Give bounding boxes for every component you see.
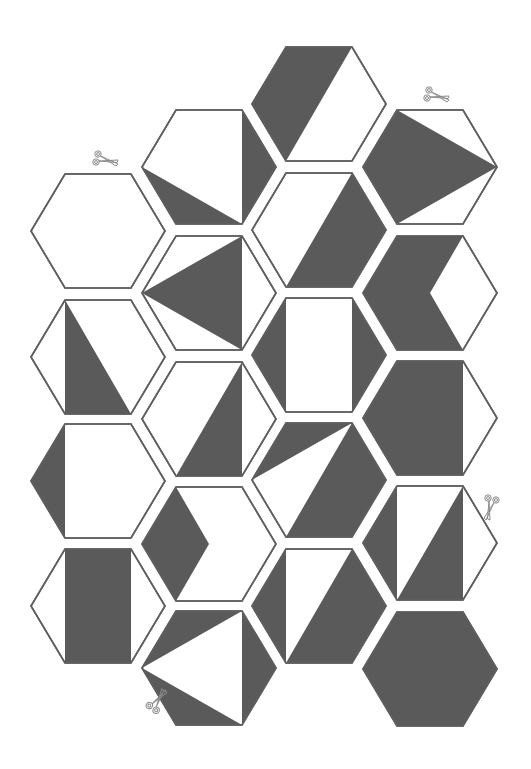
hexagon-c0r1 <box>31 300 165 414</box>
hexagon-c0r2 <box>31 424 165 538</box>
hexagon-c1r2 <box>142 362 276 476</box>
hexagon-c1r1 <box>142 236 276 350</box>
hexagon-layer <box>31 47 497 726</box>
hexagon-c2r1 <box>252 173 386 287</box>
hexagon-outline <box>31 174 165 288</box>
hexagon-sheet <box>0 0 531 769</box>
hexagon-c1r4 <box>142 611 276 725</box>
hexagon-c3r3 <box>363 486 497 600</box>
hexagon-c3r1 <box>363 236 497 350</box>
scissors-icon <box>424 87 449 102</box>
hexagon-c2r2 <box>252 298 386 412</box>
hexagon-c0r0 <box>31 174 165 288</box>
hexagon-c1r0 <box>142 110 276 224</box>
hexagon-c2r4 <box>252 549 386 663</box>
hexagon-c2r3 <box>252 423 386 537</box>
hexagon-dark-region <box>363 612 497 726</box>
hexagon-c3r4 <box>363 612 497 726</box>
hexagon-dark-region <box>65 549 131 663</box>
scissors-icon <box>93 151 118 166</box>
hexagon-c2r0 <box>252 47 386 161</box>
hexagon-dark-region <box>31 424 65 538</box>
hexagon-c3r0 <box>363 110 497 224</box>
hexagon-c3r2 <box>363 361 497 475</box>
scissors-icon <box>484 495 499 520</box>
hexagon-dark-region <box>363 361 463 475</box>
hexagon-c0r3 <box>31 549 165 663</box>
hexagon-c1r3 <box>142 487 276 601</box>
